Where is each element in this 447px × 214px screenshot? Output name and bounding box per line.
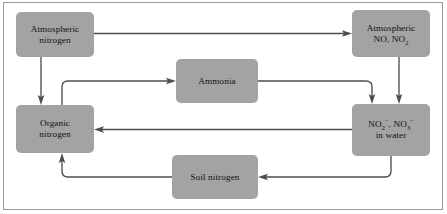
node-ammonia-label: Ammonia	[198, 76, 235, 87]
node-nitrite-nitrate-water-line2: in water	[368, 130, 413, 141]
node-nitrite-nitrate-water: NO2−, NO3− in water	[352, 104, 430, 156]
node-organic-nitrogen-line2: nitrogen	[39, 129, 70, 140]
node-organic-nitrogen-line1: Organic	[39, 118, 70, 129]
arrow-atmospheric-nitrogen-to-organic-nitrogen	[38, 57, 45, 105]
arrow-atmospheric-nox-to-nitrite-nitrate-water	[396, 57, 403, 104]
node-atmospheric-nitrogen-line2: nitrogen	[31, 35, 80, 46]
node-atmospheric-nox-line2: NO, NO2	[367, 34, 416, 45]
nitrate-charge: −	[410, 117, 414, 124]
node-atmospheric-nox: Atmospheric NO, NO2	[352, 10, 430, 57]
nox-formula-text: NO, NO	[374, 34, 406, 44]
node-nitrite-nitrate-formula: NO2−, NO3−	[368, 119, 413, 130]
node-atmospheric-nox-line1: Atmospheric	[367, 23, 416, 34]
arrow-nitrite-nitrate-water-to-organic-nitrogen	[94, 126, 352, 133]
nitrate-text: NO	[393, 119, 406, 129]
node-soil-nitrogen: Soil nitrogen	[172, 155, 258, 199]
nitrate-subscript: 3	[407, 124, 410, 131]
node-ammonia: Ammonia	[176, 59, 258, 103]
node-soil-nitrogen-label: Soil nitrogen	[190, 172, 239, 183]
node-atmospheric-nitrogen: Atmospheric nitrogen	[16, 12, 94, 57]
node-atmospheric-nitrogen-line1: Atmospheric	[31, 24, 80, 35]
nitrite-text: NO	[368, 119, 381, 129]
arrow-atmospheric-nitrogen-to-atmospheric-nox	[94, 30, 352, 37]
arrow-ammonia-to-nitrite-nitrate-water	[258, 81, 375, 104]
node-organic-nitrogen: Organic nitrogen	[16, 105, 94, 153]
arrow-nitrite-nitrate-water-to-soil-nitrogen	[258, 156, 391, 180]
nitrogen-cycle-diagram: Atmospheric nitrogen Atmospheric NO, NO2…	[0, 0, 447, 214]
arrow-soil-nitrogen-to-organic-nitrogen	[59, 153, 172, 177]
arrow-organic-nitrogen-to-ammonia	[62, 78, 176, 105]
nox-subscript-2: 2	[405, 38, 408, 45]
